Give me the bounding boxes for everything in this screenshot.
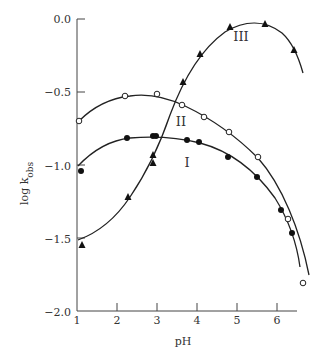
curve-label-iii: III [233, 29, 248, 44]
y-tick-label: 0.0 [54, 13, 72, 26]
x-tick-label: 1 [74, 314, 81, 327]
y-tick-label: −0.5 [44, 86, 71, 99]
series-ii-markers [76, 91, 306, 286]
y-axis-label-main: log k [18, 177, 31, 205]
svg-text:log kobs: log kobs [18, 161, 35, 205]
x-axis-label: pH [175, 335, 192, 348]
curve-label-i: I [184, 155, 189, 170]
x-tick-label: 6 [274, 314, 281, 327]
curve-ii [79, 95, 309, 275]
x-tick-label: 4 [194, 314, 201, 327]
x-tick-label: 2 [114, 314, 121, 327]
y-tick-label: −2.0 [44, 306, 71, 319]
curve-iii [78, 23, 303, 240]
curve-label-ii: II [176, 114, 186, 129]
series-iii-markers [79, 20, 298, 248]
x-tick-label: 5 [234, 314, 241, 327]
y-tick-label: −1.5 [44, 233, 71, 246]
chart: 0.0 −0.5 −1.0 −1.5 −2.0 1 2 3 4 5 6 pH l… [0, 0, 325, 357]
y-tick-label: −1.0 [44, 160, 71, 173]
y-axis-label-sub: obs [25, 161, 35, 177]
x-axis [77, 303, 297, 311]
y-axis-label: log kobs [18, 161, 35, 205]
x-tick-label: 3 [154, 314, 161, 327]
